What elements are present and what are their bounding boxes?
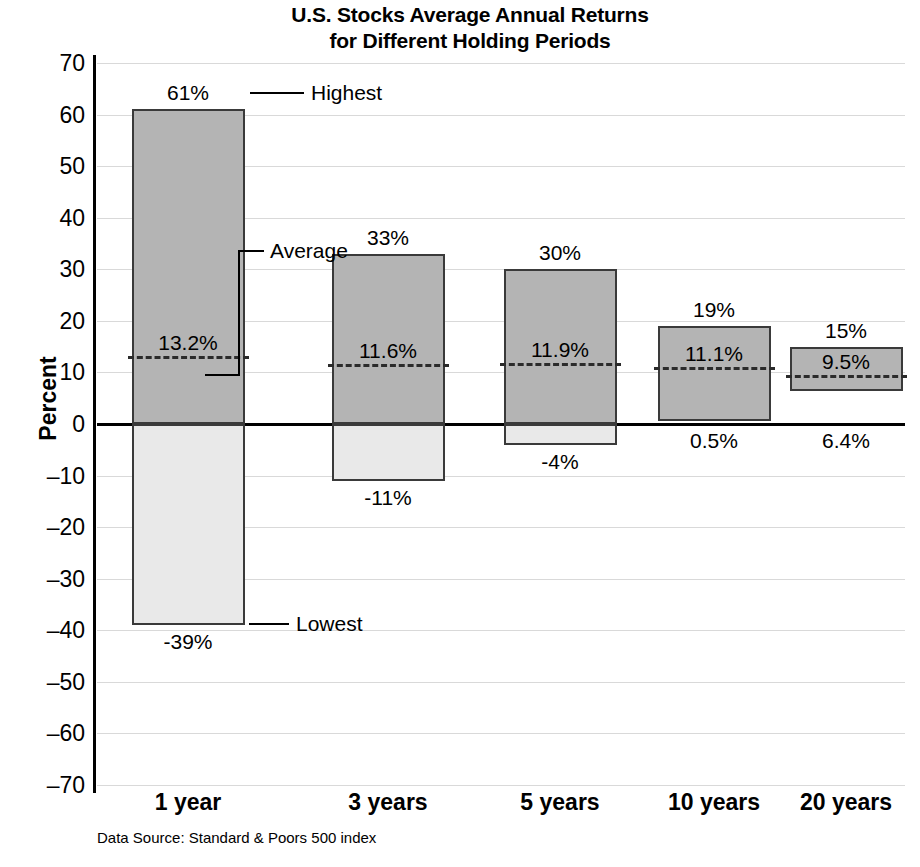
highest-callout-label: Highest <box>311 82 382 103</box>
average-marker-line <box>328 364 449 367</box>
page-edge-artifact <box>2 545 16 845</box>
y-tick-label: 70 <box>25 52 85 75</box>
low-value-label: 0.5% <box>638 430 791 451</box>
y-tick-label: 0 <box>25 413 85 436</box>
y-tick-label: 50 <box>25 155 85 178</box>
high-value-label: 30% <box>484 242 637 263</box>
low-value-label: -4% <box>484 451 637 472</box>
bar-positive-segment[interactable] <box>658 326 771 421</box>
y-tick-label: 30 <box>25 258 85 281</box>
average-value-label: 9.5% <box>780 351 913 372</box>
average-callout-leader-top <box>238 250 264 252</box>
average-marker-line <box>128 356 249 359</box>
plot-area: 13.2%61%-39%11.6%33%-11%11.9%30%-4%11.1%… <box>97 63 905 785</box>
chart-title-line-1: U.S. Stocks Average Annual Returns <box>120 2 820 28</box>
y-tick-label: 60 <box>25 104 85 127</box>
y-tick-label: 40 <box>25 207 85 230</box>
gridline <box>97 785 905 786</box>
y-tick-label: –50 <box>25 671 85 694</box>
y-tick-label: –10 <box>25 465 85 488</box>
y-tick-label: –60 <box>25 722 85 745</box>
lowest-callout-label: Lowest <box>296 613 363 634</box>
y-tick-label: –70 <box>25 774 85 797</box>
x-axis-label: 20 years <box>756 790 920 815</box>
source-note: Data Source: Standard & Poors 500 index <box>97 829 376 846</box>
y-tick-label: –40 <box>25 619 85 642</box>
y-tick-label: –20 <box>25 516 85 539</box>
bar-negative-segment[interactable] <box>504 424 617 445</box>
low-value-label: 6.4% <box>770 430 920 451</box>
average-value-label: 11.6% <box>322 340 455 361</box>
gridline <box>97 733 905 734</box>
bar-negative-segment[interactable] <box>132 424 245 625</box>
average-callout-label: Average <box>270 240 348 261</box>
y-axis-spine <box>93 55 96 793</box>
high-value-label: 61% <box>112 82 265 103</box>
chart-container: U.S. Stocks Average Annual Returns for D… <box>0 0 920 867</box>
chart-title: U.S. Stocks Average Annual Returns for D… <box>120 2 820 54</box>
average-marker-line <box>786 375 907 378</box>
y-tick-label: –30 <box>25 568 85 591</box>
x-axis-label: 5 years <box>470 790 650 815</box>
high-value-label: 19% <box>638 299 791 320</box>
average-callout-leader-bottom <box>205 374 240 376</box>
average-marker-line <box>500 363 621 366</box>
x-axis-label: 1 year <box>98 790 278 815</box>
y-tick-label: 10 <box>25 361 85 384</box>
lowest-callout-leader <box>249 623 289 625</box>
low-value-label: -39% <box>112 631 265 652</box>
average-callout-leader-vertical <box>238 250 240 375</box>
y-tick-label: 20 <box>25 310 85 333</box>
average-marker-line <box>654 367 775 370</box>
bar-positive-segment[interactable] <box>132 109 245 424</box>
x-axis-label: 3 years <box>298 790 478 815</box>
gridline <box>97 682 905 683</box>
average-value-label: 11.9% <box>494 339 627 360</box>
average-value-label: 13.2% <box>122 332 255 353</box>
average-value-label: 11.1% <box>648 343 781 364</box>
bar-negative-segment[interactable] <box>332 424 445 481</box>
gridline <box>97 63 905 64</box>
high-value-label: 15% <box>770 320 920 341</box>
chart-title-line-2: for Different Holding Periods <box>120 28 820 54</box>
highest-callout-leader <box>250 92 304 94</box>
low-value-label: -11% <box>312 487 465 508</box>
